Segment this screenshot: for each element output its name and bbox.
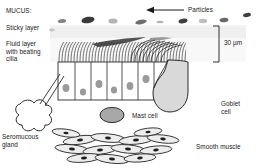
mast-cell-shape — [100, 107, 124, 122]
label-mast-cell: Mast cell — [132, 112, 158, 120]
particles-arrow-icon — [146, 7, 184, 13]
label-scale-30um: 30 µm — [224, 39, 242, 47]
sticky-layer-band — [50, 25, 246, 38]
label-fluid-layer: Fluid layer with beating cilia — [6, 40, 41, 63]
label-seromucous-gland: Seromucous gland — [2, 133, 38, 148]
label-smooth-muscle: Smooth muscle — [196, 143, 241, 151]
label-sticky-layer: Sticky layer — [6, 24, 39, 32]
diagram-canvas: MUCUS: Sticky layer Fluid layer with bea… — [0, 0, 268, 168]
label-goblet-cell: Goblet cell — [221, 100, 240, 115]
smooth-muscle-shape — [52, 127, 180, 165]
fluid-layer-band — [50, 38, 246, 62]
label-mucus-heading: MUCUS: — [6, 7, 32, 15]
label-particles: Particles — [188, 6, 213, 14]
